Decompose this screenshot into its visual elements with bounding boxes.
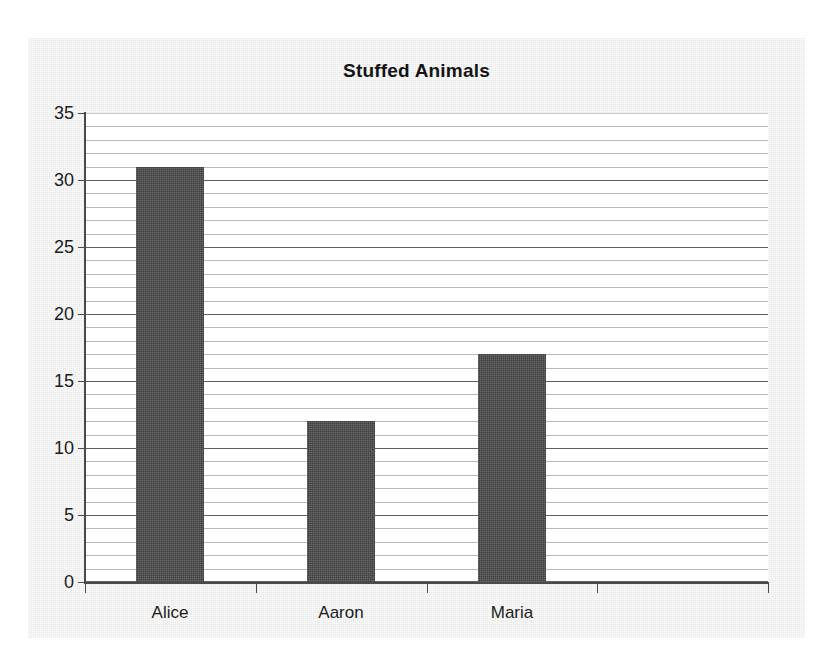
y-axis-tick <box>78 247 85 248</box>
gridline-minor <box>85 126 768 127</box>
y-axis-tick <box>78 180 85 181</box>
y-axis-tick <box>78 113 85 114</box>
y-axis-labels-group: 05101520253035 <box>28 38 74 638</box>
x-axis-label-alice: Alice <box>152 603 189 623</box>
x-axis-label-maria: Maria <box>491 603 534 623</box>
y-axis-tick <box>78 314 85 315</box>
y-axis-label: 20 <box>28 305 74 323</box>
bar-aaron[interactable] <box>307 421 375 582</box>
gridline-minor <box>85 153 768 154</box>
x-axis-label-aaron: Aaron <box>318 603 363 623</box>
y-axis-line <box>84 112 86 583</box>
x-axis-tick <box>256 584 257 593</box>
bar-maria[interactable] <box>478 354 546 582</box>
y-axis-label: 0 <box>28 573 74 591</box>
gridline-major <box>85 113 768 114</box>
x-axis-tick <box>597 584 598 593</box>
y-axis-label: 35 <box>28 104 74 122</box>
y-axis-tick <box>78 515 85 516</box>
y-axis-label: 25 <box>28 238 74 256</box>
x-axis-tick <box>85 584 86 593</box>
y-axis-label: 5 <box>28 506 74 524</box>
chart-title: Stuffed Animals <box>28 60 805 82</box>
x-axis-tick <box>768 584 769 593</box>
y-axis-label: 30 <box>28 171 74 189</box>
plot-area <box>85 113 768 582</box>
y-axis-label: 10 <box>28 439 74 457</box>
bar-alice[interactable] <box>136 167 204 582</box>
y-axis-tick <box>78 448 85 449</box>
chart-frame: Stuffed Animals 05101520253035 AliceAaro… <box>28 38 805 638</box>
x-axis-tick <box>427 584 428 593</box>
y-axis-tick <box>78 582 85 583</box>
y-axis-label: 15 <box>28 372 74 390</box>
gridline-minor <box>85 140 768 141</box>
y-axis-tick <box>78 381 85 382</box>
